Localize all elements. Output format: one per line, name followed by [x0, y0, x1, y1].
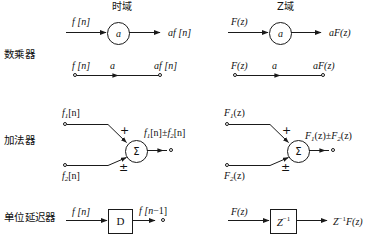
multiplier-z-branch-output-label: aF(z)	[313, 60, 335, 71]
adder-time-wire-top	[67, 125, 127, 143]
adder-z-input-top-label: F1(z)	[224, 107, 245, 122]
multiplier-z-branch-gain-label: a	[272, 60, 277, 71]
adder-time-output-label: f1[n]±f2[n]	[144, 127, 185, 142]
multiplier-time-arrow-output-label: af [n]	[168, 27, 191, 38]
adder-time-input-top-label: f1[n]	[62, 107, 80, 122]
adder-z-output-terminal	[331, 148, 335, 152]
adder-z-output-wire	[309, 150, 329, 151]
delay-time-block-glyph: D	[117, 216, 125, 227]
adder-z-input-bottom-terminal	[225, 163, 229, 167]
adder-time-wire-bottom	[67, 158, 127, 166]
multiplier-time-arrow-output-wire	[129, 32, 156, 33]
column-title-time-domain: 时域	[112, 1, 132, 13]
adder-z-sign-top: +	[282, 125, 291, 136]
delay-z-input-wire	[228, 220, 268, 221]
adder-time-sign-bottom: ±	[119, 162, 128, 173]
adder-time-input-bottom-terminal	[63, 163, 67, 167]
multiplier-time-branch-wire	[77, 75, 159, 76]
multiplier-z-arrow-input-wire	[228, 32, 268, 33]
multiplier-z-branch-input-label: F(z)	[231, 60, 248, 71]
adder-time-output-terminal	[169, 148, 173, 152]
adder-z-wire-top	[229, 125, 289, 143]
adder-z-wire-bottom	[229, 158, 289, 166]
row-label-adder: 加法器	[4, 134, 35, 147]
multiplier-z-arrow-output-wire	[291, 32, 317, 33]
multiplier-time-branch-output-terminal	[158, 73, 162, 77]
delay-time-output-label: f [n−1]	[139, 205, 167, 216]
multiplier-time-arrow-input-label: f [n]	[72, 16, 90, 27]
delay-z-block-glyph: Z−1	[277, 216, 291, 228]
adder-time-input-bottom-label: f2[n]	[62, 170, 80, 185]
column-title-z-domain: Z域	[277, 1, 294, 13]
adder-z-input-bottom-label: F2(z)	[224, 170, 245, 185]
multiplier-time-arrow-input-wire	[66, 32, 106, 33]
adder-time-sum-node: Σ	[125, 140, 148, 163]
delay-z-output-wire	[296, 220, 322, 221]
adder-z-input-top-terminal	[225, 122, 229, 126]
multiplier-time-branch-output-label: af [n]	[154, 60, 177, 71]
multiplier-z-arrow-output-label: aF(z)	[329, 27, 351, 38]
adder-z-output-label: F1(z)±F2(z)	[305, 130, 352, 145]
multiplier-time-branch-input-label: f [n]	[72, 60, 90, 71]
delay-z-output-label: Z−1F(z)	[333, 214, 363, 227]
adder-time-sign-top: +	[120, 125, 129, 136]
delay-z-block: Z−1	[270, 209, 297, 234]
multiplier-z-branch-wire	[237, 75, 322, 76]
multiplier-time-arrow-gain-node: a	[107, 22, 130, 45]
multiplier-z-arrow-gain-glyph: a	[278, 29, 283, 39]
row-label-scalar-multiplier: 数乘器	[4, 48, 35, 61]
multiplier-time-branch-gain-label: a	[110, 60, 115, 71]
adder-z-sigma-glyph: Σ	[295, 147, 301, 157]
adder-time-output-wire	[147, 150, 167, 151]
multiplier-z-arrow-gain-node: a	[269, 22, 292, 45]
multiplier-z-branch-output-terminal	[321, 73, 325, 77]
adder-time-input-top-terminal	[63, 122, 67, 126]
multiplier-time-arrow-gain-glyph: a	[116, 29, 121, 39]
multiplier-z-arrow-input-label: F(z)	[231, 16, 248, 27]
delay-z-input-label: F(z)	[231, 206, 248, 217]
delay-time-output-terminal	[161, 218, 165, 222]
delay-time-input-wire	[66, 220, 106, 221]
adder-time-sigma-glyph: Σ	[133, 147, 139, 157]
row-label-unit-delay: 单位延迟器	[4, 211, 56, 224]
adder-z-sign-bottom: ±	[281, 162, 290, 173]
delay-time-input-label: f [n]	[72, 206, 90, 217]
signal-flow-diagram: 时域 Z域 数乘器 加法器 单位延迟器 f [n] a af [n] F(z) …	[0, 0, 388, 251]
delay-time-block: D	[108, 209, 133, 234]
delay-time-output-wire	[132, 220, 152, 221]
